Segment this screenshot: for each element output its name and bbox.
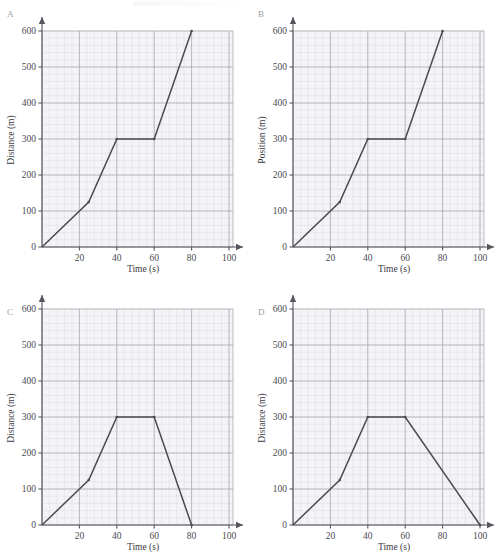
x-tick-label: 20 [326, 531, 336, 541]
x-tick-label: 100 [473, 531, 488, 541]
x-tick-label: 60 [400, 531, 410, 541]
data-point-marker [116, 416, 119, 419]
x-tick-label: 80 [438, 253, 448, 263]
data-point-marker [367, 416, 370, 419]
panel-letter-d: D [258, 307, 265, 317]
y-tick-label: 300 [273, 412, 288, 422]
data-point-marker [190, 30, 193, 33]
graph-svg-a: 204060801000100200300400500600 A Time (s… [0, 0, 251, 277]
y-tick-label: 0 [282, 520, 287, 530]
x-tick-label: 60 [400, 253, 410, 263]
data-point-marker [87, 201, 90, 204]
y-tick-label: 600 [273, 304, 288, 314]
data-point-marker [338, 201, 341, 204]
graph-svg-d: 204060801000100200300400500600 D Time (s… [251, 278, 502, 555]
x-tick-label: 40 [112, 531, 122, 541]
y-axis-title-b: Position (m) [257, 116, 268, 163]
y-tick-label: 400 [273, 98, 288, 108]
y-tick-label: 200 [22, 448, 37, 458]
y-tick-label: 200 [273, 448, 288, 458]
y-tick-label: 400 [22, 376, 37, 386]
x-tick-label: 100 [222, 253, 237, 263]
y-axis-title-a: Distance (m) [6, 115, 17, 164]
y-tick-label: 200 [273, 170, 288, 180]
graph-svg-b: 204060801000100200300400500600 B Time (s… [251, 0, 502, 277]
y-tick-label: 200 [22, 170, 37, 180]
y-tick-label: 400 [273, 376, 288, 386]
x-tick-label: 100 [473, 253, 488, 263]
x-tick-label: 20 [326, 253, 336, 263]
x-tick-label: 80 [438, 531, 448, 541]
y-axis-title-c: Distance (m) [6, 393, 17, 442]
data-point-marker [116, 138, 119, 141]
y-tick-label: 500 [273, 340, 288, 350]
graph-panel-a: 204060801000100200300400500600 A Time (s… [0, 0, 251, 277]
x-tick-label: 40 [363, 531, 373, 541]
x-axis-title-d: Time (s) [378, 542, 410, 553]
y-tick-label: 300 [22, 134, 37, 144]
y-tick-label: 0 [31, 520, 36, 530]
x-tick-label: 40 [112, 253, 122, 263]
graph-panel-c: 204060801000100200300400500600 C Time (s… [0, 278, 251, 555]
panel-letter-a: A [7, 9, 14, 19]
data-point-marker [153, 416, 156, 419]
data-point-marker [441, 30, 444, 33]
x-tick-label: 80 [187, 253, 197, 263]
data-point-marker [153, 138, 156, 141]
y-tick-label: 500 [273, 62, 288, 72]
y-tick-label: 100 [273, 206, 288, 216]
panel-letter-b: B [258, 9, 264, 19]
data-point-marker [190, 524, 193, 527]
x-tick-label: 60 [149, 253, 159, 263]
graph-svg-c: 204060801000100200300400500600 C Time (s… [0, 278, 251, 555]
data-point-marker [367, 138, 370, 141]
data-point-marker [479, 524, 482, 527]
data-point-marker [87, 479, 90, 482]
y-tick-label: 600 [273, 26, 288, 36]
y-tick-label: 0 [31, 242, 36, 252]
x-tick-label: 40 [363, 253, 373, 263]
y-tick-label: 400 [22, 98, 37, 108]
y-tick-label: 600 [22, 26, 37, 36]
x-tick-label: 20 [75, 531, 85, 541]
y-tick-label: 600 [22, 304, 37, 314]
panel-letter-c: C [7, 307, 13, 317]
data-point-marker [338, 479, 341, 482]
y-axis-title-d: Distance (m) [257, 393, 268, 442]
x-tick-label: 100 [222, 531, 237, 541]
x-axis-title-b: Time (s) [378, 264, 410, 275]
x-axis-title-a: Time (s) [127, 264, 159, 275]
y-tick-label: 300 [273, 134, 288, 144]
y-tick-label: 100 [22, 206, 37, 216]
graph-panel-b: 204060801000100200300400500600 B Time (s… [251, 0, 502, 277]
y-tick-label: 100 [22, 484, 37, 494]
data-point-marker [404, 138, 407, 141]
y-tick-label: 500 [22, 62, 37, 72]
data-point-marker [404, 416, 407, 419]
graph-panel-d: 204060801000100200300400500600 D Time (s… [251, 278, 502, 555]
y-tick-label: 300 [22, 412, 37, 422]
x-tick-label: 20 [75, 253, 85, 263]
y-tick-label: 500 [22, 340, 37, 350]
x-axis-title-c: Time (s) [127, 542, 159, 553]
y-tick-label: 100 [273, 484, 288, 494]
x-tick-label: 60 [149, 531, 159, 541]
x-tick-label: 80 [187, 531, 197, 541]
y-tick-label: 0 [282, 242, 287, 252]
